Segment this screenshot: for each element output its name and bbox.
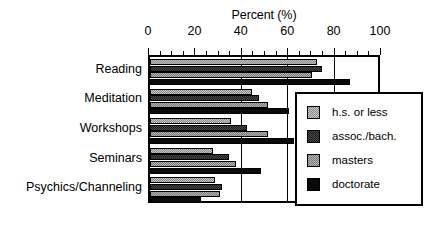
x-tick-label-40: 40 [221, 24, 261, 38]
bar-seminars-doctorate [150, 168, 261, 174]
chart-title: Percent (%) [148, 8, 380, 22]
tick-major-60 [287, 48, 288, 55]
chart-legend: h.s. or lessassoc./bach.mastersdoctorate [295, 92, 423, 206]
bar-chart: Percent (%) 020406080100 ReadingMeditati… [0, 0, 435, 234]
x-axis-tick-labels: 020406080100 [0, 24, 435, 38]
bar-reading-masters [150, 72, 312, 78]
doctorate-swatch-icon [307, 178, 320, 191]
bar-psychics-channeling-masters [150, 191, 220, 197]
legend-item-assoc-bach-[interactable]: assoc./bach. [307, 128, 397, 144]
bar-workshops-h-s-or-less [150, 118, 231, 124]
legend-item-doctorate[interactable]: doctorate [307, 176, 380, 192]
bar-meditation-assoc-bach- [150, 95, 259, 101]
legend-item-h-s-or-less[interactable]: h.s. or less [307, 104, 388, 120]
hs-swatch-icon [307, 106, 320, 119]
legend-item-masters[interactable]: masters [307, 152, 373, 168]
bar-seminars-masters [150, 161, 236, 167]
bar-reading-assoc-bach- [150, 66, 322, 72]
bar-workshops-masters [150, 131, 268, 137]
x-tick-label-100: 100 [360, 24, 400, 38]
bar-meditation-doctorate [150, 108, 289, 114]
tick-major-100 [380, 48, 381, 55]
bar-seminars-h-s-or-less [150, 148, 213, 154]
bar-psychics-channeling-h-s-or-less [150, 177, 215, 183]
bar-psychics-channeling-assoc-bach- [150, 184, 222, 190]
legend-label: doctorate [332, 178, 380, 190]
tick-major-20 [194, 48, 195, 55]
y-category-label-workshops: Workshops [80, 122, 142, 134]
bar-reading-doctorate [150, 79, 350, 85]
assoc-swatch-icon [307, 130, 320, 143]
x-tick-label-60: 60 [267, 24, 307, 38]
bar-workshops-assoc-bach- [150, 125, 247, 131]
tick-major-0 [148, 48, 149, 55]
x-tick-label-0: 0 [128, 24, 168, 38]
y-category-label-psychics-channeling: Psychics/Channeling [26, 181, 142, 193]
bar-reading-h-s-or-less [150, 59, 317, 65]
bar-meditation-h-s-or-less [150, 89, 252, 95]
x-tick-label-20: 20 [174, 24, 214, 38]
y-category-label-seminars: Seminars [89, 152, 142, 164]
tick-major-40 [241, 48, 242, 55]
bar-workshops-doctorate [150, 138, 294, 144]
tick-major-80 [334, 48, 335, 55]
x-tick-label-80: 80 [314, 24, 354, 38]
bar-meditation-masters [150, 102, 268, 108]
y-axis-category-labels: ReadingMeditationWorkshopsSeminarsPsychi… [0, 55, 146, 203]
y-category-label-reading: Reading [95, 63, 142, 75]
masters-swatch-icon [307, 154, 320, 167]
bar-psychics-channeling-doctorate [150, 197, 201, 203]
legend-label: assoc./bach. [332, 130, 397, 142]
legend-label: masters [332, 154, 373, 166]
legend-label: h.s. or less [332, 106, 388, 118]
y-category-label-meditation: Meditation [84, 92, 142, 104]
bar-seminars-assoc-bach- [150, 154, 229, 160]
